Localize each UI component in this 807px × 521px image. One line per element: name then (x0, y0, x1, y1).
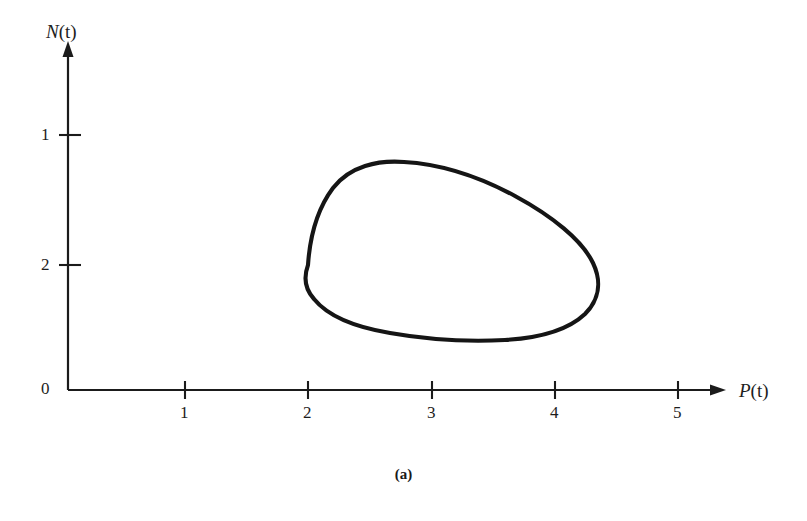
figure-caption: (a) (0, 466, 807, 483)
x-axis-title: P(t) (739, 381, 769, 400)
x-axis-arrow-icon (710, 385, 726, 396)
y-axis-arrow-icon (63, 41, 74, 57)
y-tick-label-1: 1 (41, 126, 50, 143)
x-axis-title-variable: P (739, 380, 751, 401)
origin-label: 0 (41, 380, 50, 397)
y-axis-title: N(t) (46, 22, 77, 41)
figure-container: 1 2 3 4 5 1 2 0 N(t) P(t) (a) (0, 0, 807, 521)
phase-plane-plot (0, 0, 807, 521)
y-axis-title-variable: N (46, 21, 59, 42)
x-axis-title-arg: (t) (751, 380, 769, 401)
x-tick-label-5: 5 (673, 404, 682, 421)
x-tick-label-1: 1 (180, 404, 189, 421)
x-tick-label-3: 3 (427, 404, 436, 421)
x-tick-label-4: 4 (550, 404, 559, 421)
x-tick-label-2: 2 (303, 404, 312, 421)
limit-cycle-curve (306, 162, 599, 341)
y-axis-title-arg: (t) (59, 21, 77, 42)
y-tick-label-2: 2 (41, 256, 50, 273)
